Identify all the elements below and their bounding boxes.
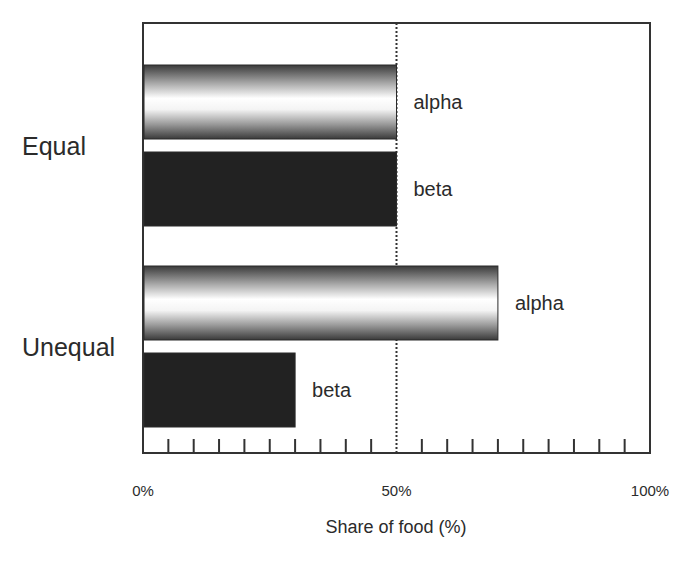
bar-beta-unequal [144,353,295,427]
category-label-unequal: Unequal [22,333,115,361]
x-tick-label: 0% [132,482,154,499]
bar-beta-equal [144,152,397,226]
bar-label-beta: beta [312,379,352,401]
bar-label-beta: beta [414,178,454,200]
bar-label-alpha: alpha [414,91,464,113]
bar-alpha-unequal [144,266,498,340]
bar-chart: alphabetaalphabeta EqualUnequal 0%50%100… [0,0,693,574]
x-tick-label: 100% [631,482,669,499]
x-tick-labels: 0%50%100% [132,482,669,499]
category-labels: EqualUnequal [22,132,115,361]
category-label-equal: Equal [22,132,86,160]
bars [144,65,498,427]
bar-label-alpha: alpha [515,292,565,314]
bar-alpha-equal [144,65,397,139]
x-minor-ticks [168,439,624,453]
x-tick-label: 50% [381,482,411,499]
x-axis-label: Share of food (%) [325,517,466,537]
